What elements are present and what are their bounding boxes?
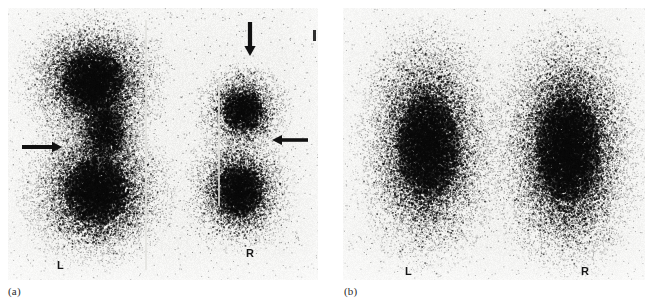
- side-label-l-panel-b: L: [405, 266, 412, 277]
- side-label-r-panel-a: R: [246, 248, 254, 259]
- side-label-l-panel-a: L: [57, 260, 64, 271]
- orientation-tick-mark: [313, 30, 316, 41]
- scan-image-a: [8, 8, 318, 280]
- figure-root: (a) (b) LRLR: [0, 0, 658, 306]
- scan-image-b: [343, 8, 645, 280]
- panel-a-caption: (a): [8, 286, 21, 297]
- scintigram-panel-a: [8, 8, 318, 280]
- scintigram-panel-b: [343, 8, 645, 280]
- side-label-r-panel-b: R: [581, 266, 589, 277]
- panel-b-caption: (b): [344, 286, 357, 297]
